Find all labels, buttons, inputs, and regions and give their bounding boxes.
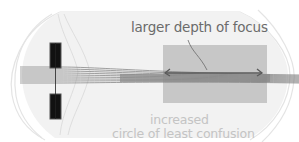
circle-label-line2: circle of least confusion <box>112 126 255 141</box>
depth-of-focus-label: larger depth of focus <box>131 19 268 35</box>
circle-label-line1: increased <box>150 112 209 127</box>
ray-convergence-band <box>120 74 270 82</box>
